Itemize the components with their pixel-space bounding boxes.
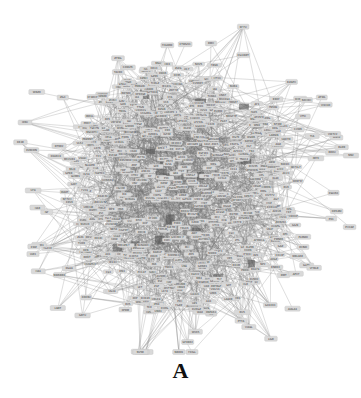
network-node: HLB xyxy=(240,282,251,286)
network-node: LHHI xyxy=(275,167,285,171)
network-node: ZXE5 xyxy=(210,142,219,146)
network-node: EZ0D xyxy=(189,221,201,225)
network-node: ZLW9E6 xyxy=(202,191,213,195)
node-label: BD6T xyxy=(84,256,91,259)
network-node: NWDX xyxy=(207,251,218,255)
node-label: ANC03 xyxy=(141,170,150,173)
node-label: SSI xyxy=(127,120,131,123)
network-node: XPC xyxy=(280,232,291,236)
network-node: TC7 xyxy=(213,277,226,281)
network-node: PH147 xyxy=(134,270,149,274)
network-node: ES7 xyxy=(243,144,254,148)
node-label: DFXD7 xyxy=(233,199,242,202)
network-node: ADV80 xyxy=(217,194,227,198)
network-node: CVW6 xyxy=(292,127,305,132)
network-node: DE1RI xyxy=(92,236,105,240)
node-label: MPB xyxy=(109,208,115,211)
network-node: VW0NCC xyxy=(168,253,180,257)
node-label: WNX xyxy=(254,124,261,127)
network-node: NXV5 xyxy=(193,62,205,66)
node-label: RMH xyxy=(208,42,214,45)
node-label: EKB1UC xyxy=(267,206,278,209)
node-label: EDK9U xyxy=(82,296,91,299)
network-node: XL5A xyxy=(163,162,173,166)
network-node: ZA4C6C xyxy=(97,194,108,198)
node-label: FTD xyxy=(204,175,209,178)
network-node: DN3 xyxy=(117,269,127,273)
node-label: BVZRE xyxy=(214,110,223,113)
node-label: RNDEE xyxy=(271,266,280,269)
node-label: BCI xyxy=(185,246,190,249)
node-label: KIVT7V xyxy=(265,194,274,197)
node-label: PL6NDI xyxy=(298,236,308,239)
network-node: NL8ATR xyxy=(82,163,97,167)
network-node: BVZRE xyxy=(213,109,224,113)
node-label: NW4IC xyxy=(281,163,290,166)
node-label: AC23 xyxy=(283,172,290,175)
node-label: NB5X xyxy=(110,228,117,231)
network-node: FAZTEC xyxy=(94,171,105,175)
node-label: VN02P0 xyxy=(164,111,175,114)
node-label: BLR7M xyxy=(166,226,175,229)
network-node: MB3ZN xyxy=(117,243,128,247)
network-node: DFXD7 xyxy=(232,198,241,202)
node-label: ZFNG xyxy=(114,57,121,60)
network-node: WBS xyxy=(206,162,219,166)
network-node: GBFU xyxy=(75,313,90,318)
network-node: TE0 xyxy=(144,306,154,310)
node-label: ST8LI xyxy=(119,83,126,86)
node-label: GGN xyxy=(292,224,298,227)
network-node: ST8LI xyxy=(118,82,127,86)
node-label: IA8 xyxy=(213,88,218,91)
node-label: MGU xyxy=(155,62,161,65)
node-label: SE9 xyxy=(154,165,159,168)
network-node: VXA8I xyxy=(78,156,87,160)
network-node: KH8 xyxy=(218,218,230,222)
network-node: ED9F5F xyxy=(292,179,303,183)
node-label: IM7E xyxy=(313,157,320,160)
node-label: RHK46 xyxy=(141,297,150,300)
node-label: RF7U xyxy=(240,26,247,29)
network-node: IX9U xyxy=(18,120,32,125)
edge xyxy=(138,298,145,352)
network-node: IM7E xyxy=(308,156,324,161)
network-node: EX33P xyxy=(274,253,284,257)
node-label: PRZBNT xyxy=(82,138,93,141)
node-label: SIH xyxy=(204,78,208,81)
network-node: RATX0 xyxy=(244,139,253,143)
node-label: ADV80 xyxy=(217,195,226,198)
node-label: ZXE5 xyxy=(212,143,219,146)
node-label: EF4DHF xyxy=(88,96,99,99)
network-node: LX76 xyxy=(90,146,104,150)
node-label: VBGM xyxy=(253,185,261,188)
network-node: LG27C xyxy=(155,185,167,189)
node-label: LAM8N xyxy=(269,134,278,137)
node-label: KH8 xyxy=(221,219,227,222)
node-label: KIF xyxy=(148,175,152,178)
network-node: NV5B xyxy=(133,350,148,355)
network-node: WNX xyxy=(251,123,263,127)
network-node: HV31 xyxy=(277,215,288,219)
network-node: XL8K xyxy=(268,176,282,180)
node-label: PT7A xyxy=(238,320,245,323)
node-label: VWL56 xyxy=(210,288,219,291)
node-label: ZL01 xyxy=(77,236,84,239)
node-label: FKIGL xyxy=(188,351,196,354)
node-label: MLI4 xyxy=(69,168,75,171)
network-node: ANC03 xyxy=(138,169,153,173)
network-node: FDHB xyxy=(211,173,221,177)
node-label: PEVGFM xyxy=(188,213,199,216)
node-label: VR5 xyxy=(227,257,233,260)
node-label: LX76 xyxy=(94,147,101,150)
network-node: CGP0T xyxy=(119,228,128,232)
node-label: KSLV63 xyxy=(329,192,339,195)
node-label: IX9U xyxy=(22,121,28,124)
node-label: MKGT7P xyxy=(226,115,237,118)
node-label: ZDT7Z xyxy=(169,89,178,92)
network-node: EF4DHF xyxy=(87,95,98,100)
network-node: RV5 xyxy=(123,302,133,306)
node-label: HK9ZE xyxy=(173,181,182,184)
node-label: VC6 xyxy=(163,101,169,104)
network-node: NUR8 xyxy=(228,85,239,89)
network-node: GDNB1 xyxy=(196,264,210,268)
